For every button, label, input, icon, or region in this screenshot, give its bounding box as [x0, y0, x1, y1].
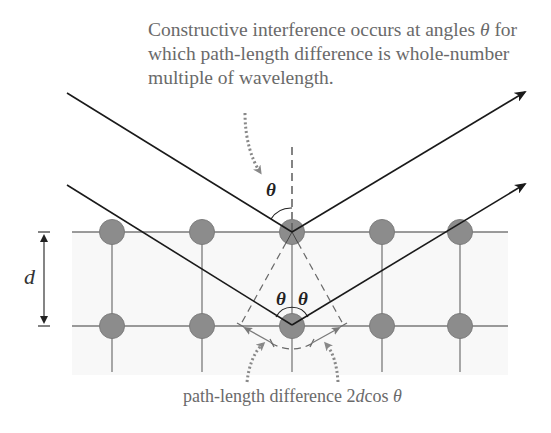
reflected-ray-upper	[292, 92, 525, 232]
atom	[370, 220, 395, 245]
theta-label-right: θ	[298, 288, 308, 309]
footer-prefix: path-length difference 2	[183, 386, 356, 406]
atom	[370, 314, 395, 339]
path-length-caption: path-length difference 2dcos θ	[183, 386, 483, 407]
atom	[280, 314, 305, 339]
angle-arc-top	[271, 208, 292, 219]
atom	[100, 220, 125, 245]
atom	[190, 314, 215, 339]
d-label: d	[24, 264, 36, 289]
footer-cos: cos	[365, 386, 394, 406]
crystal-band	[72, 232, 508, 375]
d-dimension-arrow	[38, 232, 50, 326]
diffraction-diagram: d θ	[0, 0, 551, 433]
footer-theta: θ	[393, 386, 402, 406]
atom	[190, 220, 215, 245]
theta-label-left: θ	[276, 288, 286, 309]
atom	[100, 314, 125, 339]
atom	[448, 314, 473, 339]
dotted-arrow-top	[245, 113, 260, 172]
footer-d: d	[356, 386, 365, 406]
incident-ray-upper	[67, 93, 292, 232]
theta-label-top: θ	[266, 179, 276, 200]
